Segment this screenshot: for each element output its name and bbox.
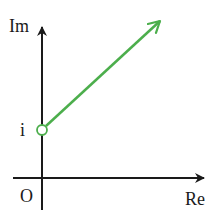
point-i-label: i xyxy=(20,120,25,140)
open-circle-marker-i xyxy=(37,125,47,135)
imaginary-axis-label: Im xyxy=(9,16,29,36)
complex-plane-diagram: Im Re O i xyxy=(0,0,223,223)
diagram-svg: Im Re O i xyxy=(0,0,223,223)
ray-from-i xyxy=(46,21,160,126)
origin-label: O xyxy=(20,186,33,206)
real-axis-label: Re xyxy=(185,189,205,209)
